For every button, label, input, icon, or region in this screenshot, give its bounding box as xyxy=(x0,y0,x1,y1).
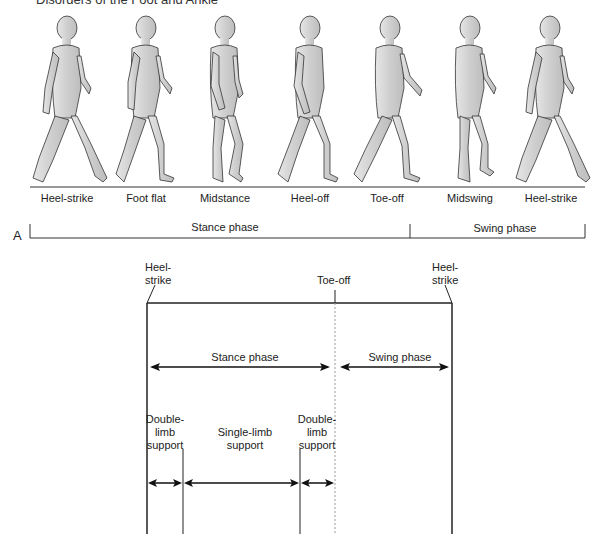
figure-label-heel-strike-1: Heel-strike xyxy=(37,192,97,204)
figure-label-midstance: Midstance xyxy=(195,192,255,204)
figure-label-heel-strike-2: Heel-strike xyxy=(521,192,581,204)
figure-midswing xyxy=(455,16,496,182)
single-limb-support: Single-limb support xyxy=(200,426,290,452)
figure-label-heel-off: Heel-off xyxy=(280,192,340,204)
figure-heel-strike-2 xyxy=(516,16,590,182)
stance-phase-label-a: Stance phase xyxy=(170,221,280,233)
figure-label-foot-flat: Foot flat xyxy=(116,192,176,204)
heel-strike-event-right: Heel- strike xyxy=(432,261,458,287)
figure-heel-strike-1 xyxy=(33,16,107,182)
swing-phase-label-b: Swing phase xyxy=(355,351,445,364)
double-limb-support-right: Double- limb support xyxy=(295,413,339,452)
stance-phase-label-b: Stance phase xyxy=(190,351,300,364)
panel-label-a: A xyxy=(13,228,22,243)
double-limb-support-left: Double- limb support xyxy=(143,413,187,452)
figure-label-toe-off: Toe-off xyxy=(357,192,417,204)
figure-label-midswing: Midswing xyxy=(440,192,500,204)
heel-strike-event-left: Heel- strike xyxy=(145,261,171,287)
figure-foot-flat xyxy=(116,16,174,182)
swing-phase-label-a: Swing phase xyxy=(450,222,560,234)
gait-figures-panel xyxy=(0,0,598,534)
figure-heel-off xyxy=(278,16,338,182)
figure-midstance xyxy=(210,16,243,182)
toe-off-event: Toe-off xyxy=(317,274,350,287)
figure-toe-off xyxy=(354,16,422,182)
